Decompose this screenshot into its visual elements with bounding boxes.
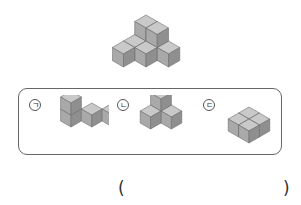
- answer-blank[interactable]: [130, 180, 280, 198]
- answer-open-paren: (: [118, 178, 125, 198]
- choice-label-a: ㄱ: [29, 99, 41, 111]
- answer-close-paren: ): [283, 178, 290, 198]
- choice-c-figure[interactable]: [219, 95, 279, 150]
- choice-b-figure[interactable]: [131, 95, 191, 150]
- choice-label-b: ㄴ: [117, 99, 129, 111]
- choice-a-figure[interactable]: [49, 95, 109, 150]
- cube: [102, 103, 109, 127]
- choices-box: ㄱ ㄴ ㄷ: [18, 88, 282, 155]
- main-cube-figure: [112, 10, 192, 80]
- choice-label-c: ㄷ: [203, 99, 215, 111]
- cube: [81, 103, 102, 127]
